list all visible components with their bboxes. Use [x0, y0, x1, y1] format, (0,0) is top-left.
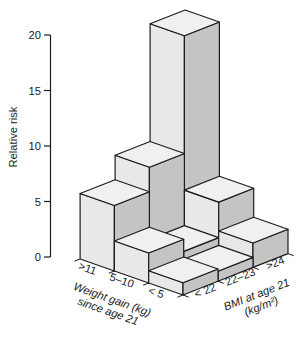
z-tick-label: 20 — [29, 29, 41, 41]
bars-layer — [75, 10, 294, 297]
relative-risk-3d-bar-chart: 0 5 10 15 20 Relative risk >11 5–10 < 5 … — [0, 0, 305, 344]
base-tick — [75, 259, 81, 261]
base-tick — [288, 254, 294, 256]
z-axis: 0 5 10 15 20 Relative risk — [7, 29, 51, 263]
base-tick — [143, 283, 149, 285]
z-tick-label: 15 — [29, 85, 41, 97]
bar-left-face — [80, 194, 114, 272]
weight-gain-axis-title: Weight gain (kg) since age 21 — [68, 280, 153, 330]
z-tick-label: 10 — [29, 140, 41, 152]
base-tick — [253, 267, 259, 269]
base-tick — [183, 295, 189, 297]
z-tick-label: 0 — [35, 251, 41, 263]
base-tick — [218, 281, 224, 283]
z-tick-label: 5 — [35, 196, 41, 208]
figure-container: 0 5 10 15 20 Relative risk >11 5–10 < 5 … — [0, 0, 305, 344]
base-tick — [177, 295, 183, 297]
z-axis-title: Relative risk — [7, 106, 19, 167]
